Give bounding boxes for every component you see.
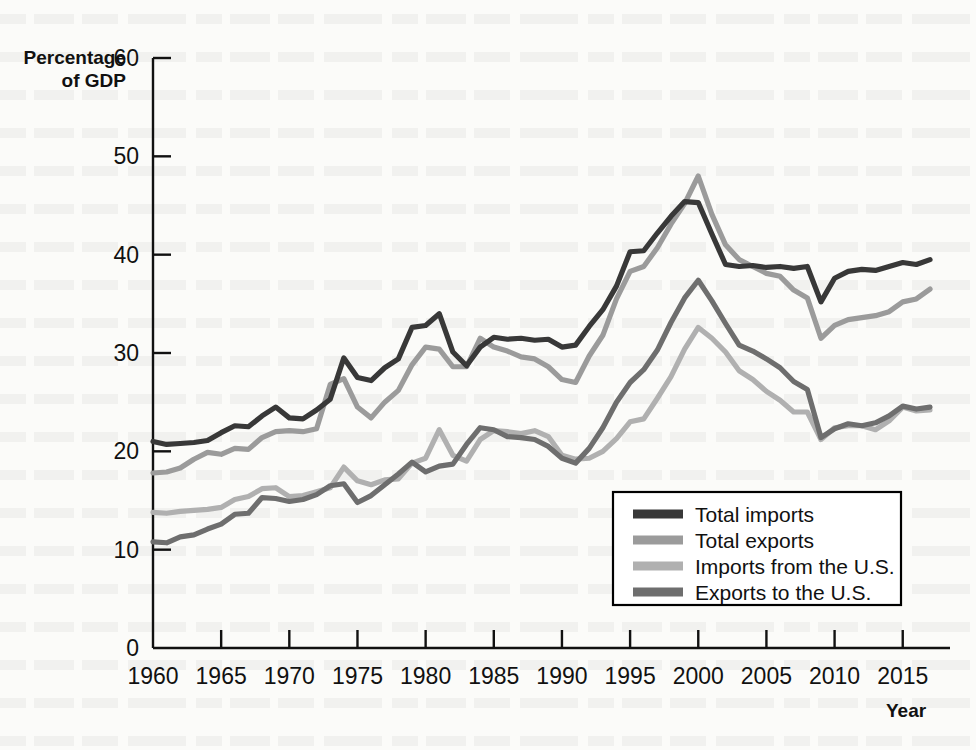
x-axis-tick-label: 1965 xyxy=(196,663,247,689)
y-axis: 0102030405060 xyxy=(113,45,171,661)
y-axis-tick-label: 0 xyxy=(126,635,139,661)
x-axis-tick-label: 1970 xyxy=(264,663,315,689)
figure-page: Percentage of GDP Year 0102030405060 196… xyxy=(0,0,976,750)
y-axis-tick-label: 10 xyxy=(113,537,139,563)
x-axis-tick-label: 1995 xyxy=(605,663,656,689)
x-axis-tick-label: 1960 xyxy=(127,663,178,689)
x-axis-tick-label: 1980 xyxy=(400,663,451,689)
line-chart: 0102030405060 19601965197019751980198519… xyxy=(0,0,976,750)
y-axis-tick-label: 50 xyxy=(113,143,139,169)
x-axis-tick-label: 2015 xyxy=(877,663,928,689)
x-axis: 1960196519701975198019851990199520002005… xyxy=(127,630,950,689)
y-axis-tick-label: 20 xyxy=(113,438,139,464)
x-axis-tick-label: 1975 xyxy=(332,663,383,689)
x-axis-tick-label: 1985 xyxy=(468,663,519,689)
x-axis-tick-label: 2010 xyxy=(809,663,860,689)
x-axis-tick-label: 2000 xyxy=(673,663,724,689)
y-axis-tick-label: 30 xyxy=(113,340,139,366)
legend-label-imports-from-the-u-s: Imports from the U.S. xyxy=(695,555,895,578)
series-lines xyxy=(153,176,930,543)
y-axis-tick-label: 60 xyxy=(113,45,139,71)
legend-label-exports-to-the-u-s: Exports to the U.S. xyxy=(695,581,871,604)
legend-label-total-imports: Total imports xyxy=(695,503,814,526)
y-axis-tick-label: 40 xyxy=(113,242,139,268)
chart-legend[interactable]: Total importsTotal exportsImports from t… xyxy=(613,492,901,605)
x-axis-tick-label: 1990 xyxy=(536,663,587,689)
legend-label-total-exports: Total exports xyxy=(695,529,814,552)
x-axis-tick-label: 2005 xyxy=(741,663,792,689)
